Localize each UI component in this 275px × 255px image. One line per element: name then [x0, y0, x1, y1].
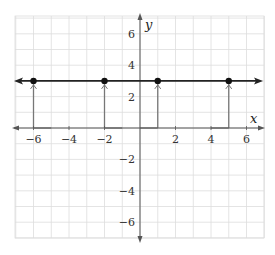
coordinate-plane: −6−4−2246642−2−4−6 x y — [0, 0, 275, 255]
y-tick-label: 2 — [128, 91, 135, 104]
x-tick-label: 4 — [208, 133, 215, 146]
x-tick-label: −4 — [61, 133, 77, 146]
data-point — [30, 78, 36, 84]
y-tick-label: −6 — [119, 216, 135, 229]
x-tick-label: −6 — [25, 133, 41, 146]
y-axis-up-arrow-icon — [138, 13, 143, 20]
y-axis-label: y — [144, 17, 153, 32]
x-tick-label: 6 — [243, 133, 250, 146]
data-point — [101, 78, 107, 84]
data-point — [226, 78, 232, 84]
axes — [12, 13, 265, 243]
y-tick-label: 4 — [128, 59, 135, 72]
x-tick-label: 2 — [172, 133, 179, 146]
y-tick-label: −4 — [119, 185, 135, 198]
y-tick-label: −2 — [119, 153, 135, 166]
data-point — [155, 78, 161, 84]
y-tick-label: 6 — [128, 28, 135, 41]
x-tick-label: −2 — [96, 133, 112, 146]
y-axis-down-arrow-icon — [138, 236, 143, 243]
x-axis-label: x — [250, 111, 258, 126]
